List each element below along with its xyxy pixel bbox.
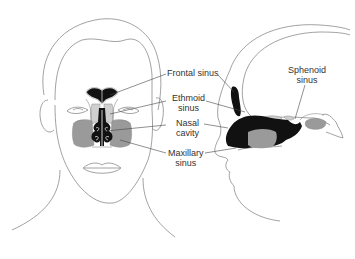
frontal-sinus-side	[231, 87, 241, 117]
label-frontal-sinus: Frontal sinus	[167, 68, 219, 78]
label-sphenoid-sinus: Sphenoid sinus	[288, 65, 326, 85]
front-view-sinuses	[72, 88, 131, 148]
maxillary-sinus-right	[110, 120, 132, 147]
side-view-sinuses	[226, 87, 326, 149]
label-ethmoid-sinus: Ethmoid sinus	[172, 93, 205, 113]
label-ethmoid-line2: sinus	[172, 103, 205, 113]
label-maxillary-line1: Maxillary	[168, 148, 204, 158]
label-nasal-line2: cavity	[176, 128, 199, 138]
sphenoid-sinus-side	[305, 118, 326, 129]
label-nasal-cavity: Nasal cavity	[176, 118, 199, 138]
label-sphenoid-line2: sinus	[288, 75, 326, 85]
label-frontal-line1: Frontal sinus	[167, 68, 219, 78]
label-sphenoid-line1: Sphenoid	[288, 65, 326, 75]
label-maxillary-sinus: Maxillary sinus	[168, 148, 204, 168]
maxillary-sinus-side	[248, 129, 277, 148]
label-ethmoid-line1: Ethmoid	[172, 93, 205, 103]
label-nasal-line1: Nasal	[176, 118, 199, 128]
label-maxillary-line2: sinus	[168, 158, 204, 168]
maxillary-sinus-left	[72, 120, 94, 147]
front-view-face	[12, 19, 175, 237]
